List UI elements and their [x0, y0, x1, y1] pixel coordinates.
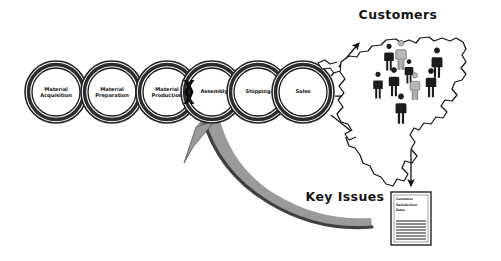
key-issues-feedback-arrow [184, 116, 372, 228]
diagram-canvas: Material Acquisition Material Preparatio… [0, 0, 501, 261]
ring-material-preparation[interactable] [81, 61, 143, 123]
document-line-1: Customer [396, 197, 413, 201]
diagram-artwork [0, 0, 501, 261]
key-issues-label: Key Issues [306, 189, 385, 204]
ring-material-acquisition[interactable] [25, 61, 87, 123]
document-line-2: Satisfaction [396, 203, 417, 207]
document-line-3: Data [396, 208, 404, 212]
ring-sales[interactable] [272, 61, 334, 123]
customers-label: Customers [359, 7, 438, 22]
process-chain-rings [25, 61, 334, 123]
document-rules [396, 221, 426, 239]
